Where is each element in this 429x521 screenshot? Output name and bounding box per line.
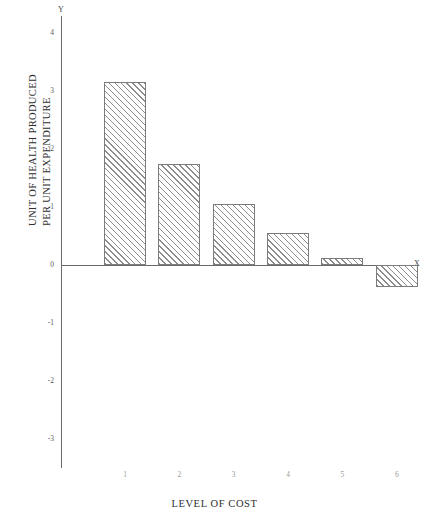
x-tick-label: 1 bbox=[110, 470, 140, 479]
y-tick-text: 1 bbox=[40, 202, 54, 211]
y-tick-text: 4 bbox=[40, 28, 54, 37]
y-tick-text: -3 bbox=[40, 434, 54, 443]
x-tick-label: 5 bbox=[327, 470, 357, 479]
bar bbox=[267, 233, 309, 265]
y-tick-text: -2 bbox=[40, 376, 54, 385]
bar bbox=[376, 265, 418, 287]
y-tick-label: 3 bbox=[40, 86, 54, 96]
x-tick-label: 2 bbox=[164, 470, 194, 479]
y-tick-label: 1 bbox=[40, 202, 54, 212]
y-tick-text: -1 bbox=[40, 318, 54, 327]
y-tick-text: 3 bbox=[40, 86, 54, 95]
x-axis-title: LEVEL OF COST bbox=[0, 498, 429, 509]
y-tick-label: -2 bbox=[40, 376, 54, 386]
bar bbox=[321, 258, 363, 265]
chart-figure: UNIT OF HEALTH PRODUCED PER UNIT EXPENDI… bbox=[0, 0, 429, 521]
y-tick-label: -3 bbox=[40, 434, 54, 444]
x-tick-label: 3 bbox=[219, 470, 249, 479]
x-tick-label: 4 bbox=[273, 470, 303, 479]
bar bbox=[104, 82, 146, 265]
y-tick-label: 0 bbox=[40, 260, 54, 270]
y-tick-label: 4 bbox=[40, 28, 54, 38]
y-tick-label: -1 bbox=[40, 318, 54, 328]
y-axis-letter: Y bbox=[58, 5, 64, 14]
y-tick-text: 2 bbox=[40, 144, 54, 153]
bar bbox=[158, 164, 200, 266]
y-tick-label: 2 bbox=[40, 144, 54, 154]
bar bbox=[213, 204, 255, 265]
y-axis-title-line1: UNIT OF HEALTH PRODUCED bbox=[26, 74, 40, 226]
x-tick-label: 6 bbox=[382, 470, 412, 479]
plot-area bbox=[61, 16, 417, 468]
y-tick-text: 0 bbox=[40, 260, 54, 269]
